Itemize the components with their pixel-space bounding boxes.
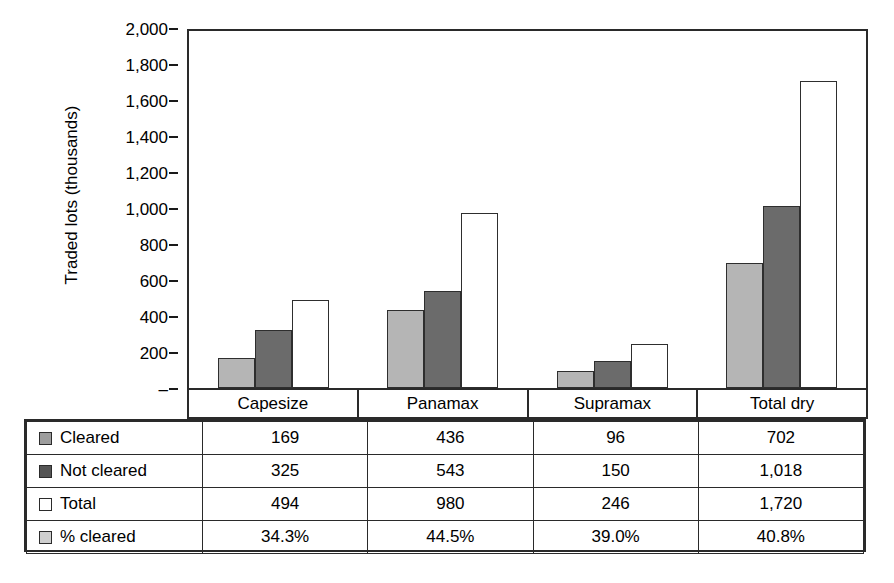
- table-row: Cleared16943696702: [27, 422, 864, 455]
- y-tick-label: 1,400: [125, 129, 168, 146]
- y-tick-label: 1,800: [125, 57, 168, 74]
- table-cell: 169: [203, 422, 368, 455]
- y-tick-mark: [169, 100, 178, 102]
- y-tick-label: 400: [140, 309, 168, 326]
- bar-notcleared: [763, 206, 800, 388]
- legend-swatch-icon: [39, 498, 52, 511]
- category-label-total-dry: Total dry: [698, 390, 866, 417]
- table-row: Total4949802461,720: [27, 488, 864, 521]
- table-cell: 44.5%: [368, 521, 533, 554]
- y-tick-mark: [169, 316, 178, 318]
- legend-swatch-icon: [39, 531, 52, 544]
- y-tick-label: 1,200: [125, 165, 168, 182]
- y-tick-label: 2,000: [125, 21, 168, 38]
- bar-group: [358, 31, 527, 388]
- legend-swatch-icon: [39, 465, 52, 478]
- legend-label: Total: [60, 494, 96, 514]
- bar-total: [800, 81, 837, 388]
- bar-notcleared: [255, 330, 292, 388]
- y-tick-mark: [169, 64, 178, 66]
- y-tick-mark: [169, 280, 178, 282]
- y-tick-mark: [169, 352, 178, 354]
- bar-notcleared: [424, 291, 461, 388]
- category-label-capesize: Capesize: [189, 390, 359, 417]
- y-axis-ticks: 2,0001,8001,6001,4001,2001,0008006004002…: [60, 0, 178, 400]
- y-tick-mark: [169, 208, 178, 210]
- legend-label: Cleared: [60, 428, 120, 448]
- table-cell: 980: [368, 488, 533, 521]
- category-label-panamax: Panamax: [359, 390, 529, 417]
- table-cell: 1,720: [698, 488, 863, 521]
- bar-cleared: [726, 263, 763, 388]
- y-tick-mark: [169, 388, 178, 390]
- legend-label: Not cleared: [60, 461, 147, 481]
- chart-figure: Traded lots (thousands) 2,0001,8001,6001…: [0, 0, 894, 583]
- table-cell: 1,018: [698, 455, 863, 488]
- legend-label: % cleared: [60, 527, 136, 547]
- bar-group: [189, 31, 358, 388]
- bar-group: [697, 31, 866, 388]
- table-row-header: Total: [27, 488, 203, 521]
- y-tick-label: 1,000: [125, 201, 168, 218]
- table-row: Not cleared3255431501,018: [27, 455, 864, 488]
- table-cell: 436: [368, 422, 533, 455]
- data-table: Cleared16943696702Not cleared3255431501,…: [24, 419, 866, 552]
- table-cell: 325: [203, 455, 368, 488]
- bar-cleared: [387, 310, 424, 388]
- legend-swatch-icon: [39, 432, 52, 445]
- y-tick-mark: [169, 136, 178, 138]
- bar-total: [292, 300, 329, 388]
- y-tick-label: 600: [140, 273, 168, 290]
- table-cell: 39.0%: [533, 521, 698, 554]
- y-tick-mark: [169, 28, 178, 30]
- table-cell: 34.3%: [203, 521, 368, 554]
- y-tick-label: 1,600: [125, 93, 168, 110]
- table-row: % cleared34.3%44.5%39.0%40.8%: [27, 521, 864, 554]
- y-tick-label: 200: [140, 345, 168, 362]
- y-tick-mark: [169, 172, 178, 174]
- table-row-header: % cleared: [27, 521, 203, 554]
- bar-cleared: [557, 371, 594, 388]
- table-cell: 150: [533, 455, 698, 488]
- table-row-header: Cleared: [27, 422, 203, 455]
- y-tick-label: –: [159, 381, 168, 398]
- table-cell: 494: [203, 488, 368, 521]
- bar-notcleared: [594, 361, 631, 388]
- bar-total: [631, 344, 668, 388]
- category-label-supramax: Supramax: [529, 390, 699, 417]
- bar-total: [461, 213, 498, 388]
- category-axis-labels: CapesizePanamaxSupramaxTotal dry: [187, 390, 868, 419]
- y-tick-label: 800: [140, 237, 168, 254]
- plot-bars: [189, 31, 866, 388]
- table-cell: 702: [698, 422, 863, 455]
- table-cell: 40.8%: [698, 521, 863, 554]
- table-cell: 246: [533, 488, 698, 521]
- bar-cleared: [218, 358, 255, 388]
- table-row-header: Not cleared: [27, 455, 203, 488]
- plot-area: [187, 29, 868, 390]
- bar-group: [528, 31, 697, 388]
- table-cell: 96: [533, 422, 698, 455]
- table-cell: 543: [368, 455, 533, 488]
- y-tick-mark: [169, 244, 178, 246]
